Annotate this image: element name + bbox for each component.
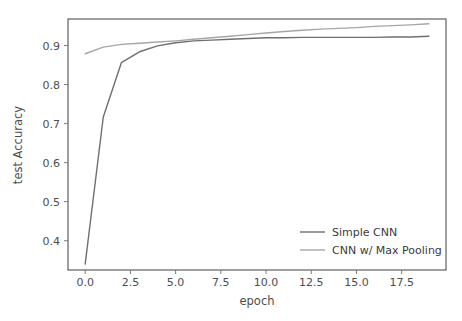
y-tick-label: 0.6	[43, 157, 61, 170]
y-tick-label: 0.9	[43, 40, 61, 53]
x-tick-label: 0.0	[76, 276, 94, 289]
legend-label: Simple CNN	[332, 226, 397, 239]
y-axis-label: test Accuracy	[11, 106, 25, 184]
chart-background	[0, 0, 462, 321]
line-chart: 0.02.55.07.510.012.515.017.5 0.40.50.60.…	[0, 0, 462, 321]
x-tick-label: 12.5	[299, 276, 324, 289]
y-tick-label: 0.8	[43, 79, 61, 92]
x-tick-label: 2.5	[122, 276, 140, 289]
x-axis-label: epoch	[239, 294, 274, 308]
x-tick-label: 17.5	[389, 276, 414, 289]
x-tick-label: 5.0	[167, 276, 185, 289]
x-tick-label: 15.0	[344, 276, 369, 289]
x-tick-label: 7.5	[212, 276, 230, 289]
y-tick-label: 0.5	[43, 196, 61, 209]
y-tick-label: 0.4	[43, 235, 61, 248]
y-tick-label: 0.7	[43, 118, 61, 131]
legend-label: CNN w/ Max Pooling	[332, 244, 442, 257]
figure-canvas: 0.02.55.07.510.012.515.017.5 0.40.50.60.…	[0, 0, 462, 321]
x-tick-label: 10.0	[254, 276, 279, 289]
